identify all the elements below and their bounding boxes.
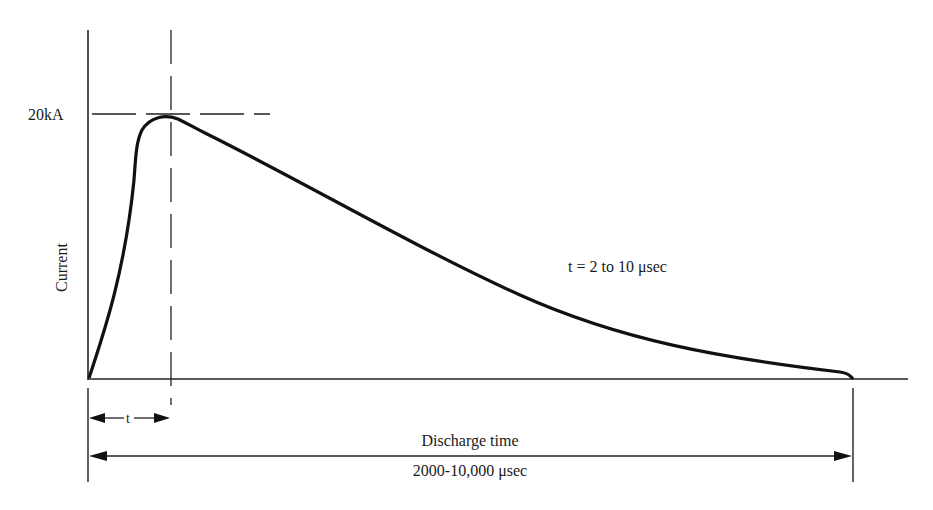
surge-current-diagram: 20kA Current t = 2 to 10 μsec t Discharg… (0, 0, 933, 510)
arrow-right-icon (834, 451, 852, 461)
arrow-left-icon (89, 413, 105, 423)
y-axis-label: Current (53, 243, 70, 292)
current-waveform (89, 117, 853, 379)
duration-label: 2000-10,000 μsec (413, 462, 527, 480)
rise-time-annotation: t = 2 to 10 μsec (568, 258, 667, 276)
arrow-right-icon (154, 413, 170, 423)
discharge-label: Discharge time (421, 432, 518, 450)
rise-label: t (126, 411, 130, 426)
peak-label: 20kA (28, 106, 64, 123)
arrow-left-icon (89, 451, 107, 461)
